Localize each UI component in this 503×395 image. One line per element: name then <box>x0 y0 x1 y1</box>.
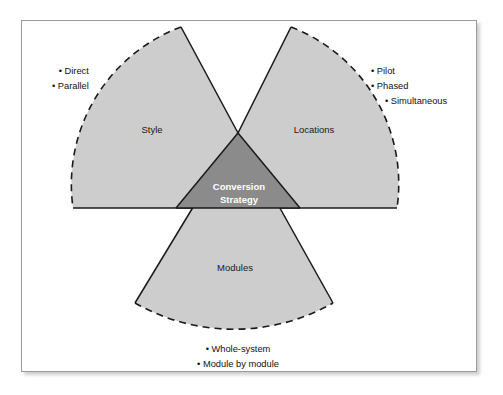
conversion-strategy-diagram: Style Locations Modules Conversion Strat… <box>0 0 503 395</box>
bullets-modules: • Whole-system • Module by module <box>148 342 328 372</box>
wedge-modules-label: Modules <box>217 262 253 273</box>
wedge-locations-label: Locations <box>294 124 335 135</box>
bullet-item: • Whole-system <box>148 342 328 357</box>
bullet-item: • Module by module <box>148 357 328 372</box>
bullet-item: • Simultaneous <box>371 94 447 109</box>
wedge-style-label: Style <box>141 124 162 135</box>
bullet-item: • Direct <box>52 64 89 79</box>
figure-container: Style Locations Modules Conversion Strat… <box>0 0 503 395</box>
bullet-item: • Phased <box>371 79 447 94</box>
core-label-line2: Strategy <box>220 194 259 205</box>
core-label-line1: Conversion <box>213 181 265 192</box>
bullets-locations: • Pilot • Phased • Simultaneous <box>371 64 447 109</box>
bullet-item: • Pilot <box>371 64 447 79</box>
bullets-style: • Direct • Parallel <box>52 64 89 94</box>
bullet-item: • Parallel <box>52 79 89 94</box>
